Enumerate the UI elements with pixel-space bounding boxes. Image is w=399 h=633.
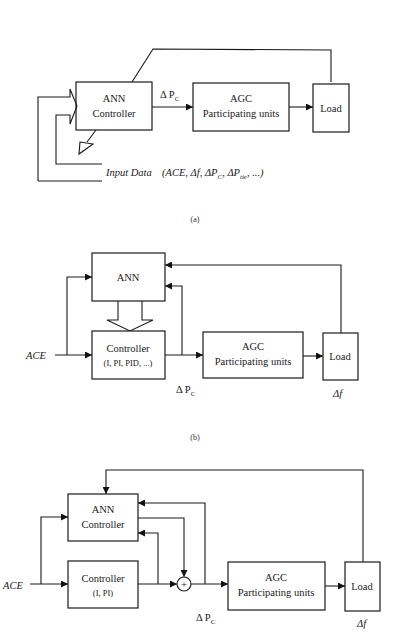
ann-block-b: ANN (92, 253, 165, 301)
agc-label-2: Participating units (215, 356, 292, 367)
arrow-ace-to-ann (67, 277, 92, 355)
arrow-pc-to-ann (165, 286, 182, 355)
load-label: Load (329, 351, 351, 362)
figure-canvas: ANN Controller Δ PC AGC Participating un… (0, 0, 399, 633)
agc-block-c: AGC Participating units (228, 562, 325, 610)
feedback-load-to-ann (165, 265, 341, 333)
controller-block-c: Controller (I, PI) (68, 561, 138, 608)
ann-controller-label-1: ANN (103, 93, 126, 104)
controller-label-1: Controller (106, 343, 150, 354)
controller-label-1: Controller (81, 573, 125, 584)
ann-controller-block-c: ANN Controller (68, 494, 138, 541)
panel-a: ANN Controller Δ PC AGC Participating un… (38, 49, 349, 224)
agc-block-b: AGC Participating units (203, 332, 303, 378)
ann-controller-label-1: ANN (92, 504, 115, 515)
delta-pc-label-c: Δ PC (196, 612, 216, 626)
arrow-ace-to-ann (41, 517, 68, 584)
input-data-vars: (ACE, Δf, ΔPC, ΔPtie, ...) (162, 167, 264, 181)
ann-controller-block-a: ANN Controller (76, 82, 152, 130)
ace-input-label-c: ACE (2, 580, 23, 591)
agc-label-1: AGC (265, 572, 287, 583)
load-label: Load (351, 581, 373, 592)
summing-junction: + (177, 577, 191, 591)
controller-block-b: Controller (I, PI, PID, ...) (92, 331, 165, 379)
load-block-a: Load (313, 84, 349, 132)
input-data-label: Input Data (105, 167, 152, 178)
agc-label-1: AGC (230, 93, 252, 104)
feedback-line-load-to-ann (132, 49, 331, 82)
ann-controller-label-2: Controller (92, 108, 136, 119)
agc-block-a: AGC Participating units (193, 83, 289, 131)
agc-label-2: Participating units (238, 587, 315, 598)
caption-b: (b) (190, 433, 200, 442)
agc-label-2: Participating units (203, 108, 280, 119)
delta-pc-label-b: Δ PC (176, 384, 196, 398)
load-block-c: Load (345, 562, 380, 611)
summer-plus-icon: + (181, 579, 187, 590)
agc-label-1: AGC (242, 341, 264, 352)
ann-label: ANN (117, 272, 140, 283)
load-label: Load (320, 103, 342, 114)
controller-label-2: (I, PI, PID, ...) (104, 358, 153, 368)
training-output-arrow (79, 130, 96, 154)
load-block-b: Load (323, 333, 358, 380)
caption-a: (a) (191, 215, 200, 224)
ann-controller-label-2: Controller (81, 519, 125, 530)
arrow-controller-output-to-ann (138, 533, 158, 584)
feedback-load-to-ann (106, 470, 363, 562)
delta-f-label-c: Δf (356, 618, 368, 629)
delta-pc-label-a: Δ PC (160, 89, 180, 103)
ace-input-label-b: ACE (25, 350, 46, 361)
delta-f-label-b: Δf (332, 388, 344, 399)
arrow-ann-to-summer (138, 518, 184, 577)
panel-c: ANN Controller Controller (I, PI) ACE + … (2, 470, 380, 629)
panel-b: ANN Controller (I, PI, PID, ...) ACE Δ P… (25, 253, 358, 442)
controller-label-2: (I, PI) (93, 588, 113, 598)
arrow-pc-to-ann (138, 503, 205, 584)
ann-tuning-arrow (107, 301, 153, 331)
